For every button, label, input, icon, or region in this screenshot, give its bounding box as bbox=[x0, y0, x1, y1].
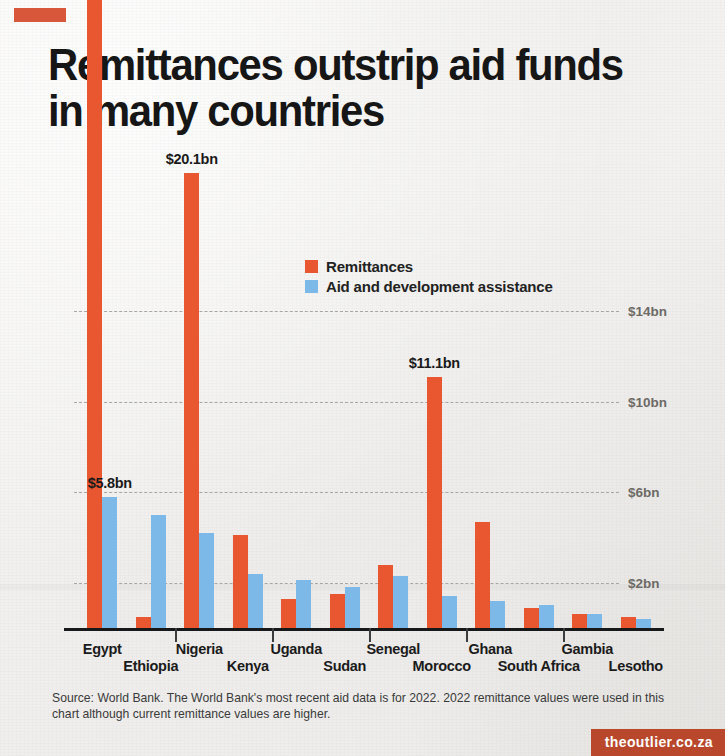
source-note: Source: World Bank. The World Bank's mos… bbox=[52, 690, 677, 722]
bar-group bbox=[572, 0, 602, 628]
bar-group bbox=[524, 0, 554, 628]
bar-group bbox=[330, 0, 360, 628]
bar-group bbox=[475, 0, 505, 628]
x-axis-line bbox=[64, 628, 664, 631]
bar-aid bbox=[151, 515, 166, 628]
legend-item-aid: Aid and development assistance bbox=[305, 278, 553, 295]
bar-aid bbox=[587, 614, 602, 628]
bar-group bbox=[233, 0, 263, 628]
x-axis-label-sudan: Sudan bbox=[323, 658, 366, 674]
bar-aid bbox=[636, 619, 651, 628]
legend-swatch-remittances bbox=[305, 260, 318, 273]
x-axis-label-senegal: Senegal bbox=[366, 641, 420, 657]
bar-group bbox=[378, 0, 408, 628]
bar-remittances bbox=[233, 535, 248, 628]
value-label: $5.8bn bbox=[88, 475, 132, 491]
x-axis-tick bbox=[272, 628, 274, 642]
bar-group bbox=[87, 0, 117, 628]
x-axis-tick bbox=[563, 628, 565, 642]
value-label: $20.1bn bbox=[166, 151, 218, 167]
legend-label-remittances: Remittances bbox=[326, 258, 413, 275]
bar-remittances bbox=[524, 608, 539, 628]
legend-swatch-aid bbox=[305, 280, 318, 293]
bar-aid bbox=[345, 587, 360, 628]
bar-remittances bbox=[330, 594, 345, 628]
x-axis-label-ethiopia: Ethiopia bbox=[123, 658, 178, 674]
x-axis-label-egypt: Egypt bbox=[83, 641, 122, 657]
x-axis-label-lesotho: Lesotho bbox=[609, 658, 663, 674]
bar-remittances bbox=[572, 614, 587, 628]
x-axis-tick bbox=[466, 628, 468, 642]
bar-aid bbox=[490, 601, 505, 628]
bar-aid bbox=[442, 596, 457, 628]
bar-group bbox=[427, 0, 457, 628]
bar-group bbox=[281, 0, 311, 628]
x-axis-tick bbox=[175, 628, 177, 642]
x-axis-label-uganda: Uganda bbox=[271, 641, 322, 657]
bar-remittances bbox=[281, 599, 296, 628]
bar-aid bbox=[296, 580, 311, 628]
bar-remittances bbox=[136, 617, 151, 628]
bar-group bbox=[184, 0, 214, 628]
x-axis-label-kenya: Kenya bbox=[227, 658, 269, 674]
bar-aid bbox=[539, 605, 554, 628]
bar-group bbox=[621, 0, 651, 628]
bar-remittances bbox=[87, 0, 102, 628]
publisher-credit-badge: theoutlier.co.za bbox=[591, 729, 725, 756]
bar-remittances bbox=[427, 377, 442, 628]
x-axis-label-morocco: Morocco bbox=[413, 658, 471, 674]
bar-remittances bbox=[184, 173, 199, 628]
x-axis-label-ghana: Ghana bbox=[468, 641, 512, 657]
chart-legend: Remittances Aid and development assistan… bbox=[305, 258, 553, 298]
bar-remittances bbox=[378, 565, 393, 628]
bar-aid bbox=[102, 497, 117, 628]
x-axis-label-nigeria: Nigeria bbox=[176, 641, 223, 657]
value-label: $11.1bn bbox=[409, 355, 460, 371]
bar-remittances bbox=[475, 522, 490, 628]
chart-bars bbox=[0, 0, 725, 628]
legend-label-aid: Aid and development assistance bbox=[326, 278, 553, 295]
legend-item-remittances: Remittances bbox=[305, 258, 553, 275]
x-axis-label-south-africa: South Africa bbox=[498, 658, 580, 674]
x-axis-label-gambia: Gambia bbox=[562, 641, 613, 657]
x-axis-tick bbox=[369, 628, 371, 642]
bar-remittances bbox=[621, 617, 636, 628]
bar-group bbox=[136, 0, 166, 628]
bar-aid bbox=[393, 576, 408, 628]
bar-aid bbox=[199, 533, 214, 628]
bar-aid bbox=[248, 574, 263, 628]
